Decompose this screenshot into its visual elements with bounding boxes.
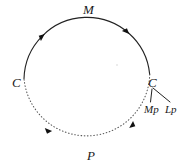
branch-line-lp: [153, 88, 170, 102]
arrowhead-group: [37, 27, 136, 135]
label-c-right: C: [148, 76, 157, 89]
branch-connectors: [151, 88, 171, 102]
label-mp: Mp: [144, 104, 159, 115]
label-p: P: [87, 149, 95, 162]
branch-line-mp: [151, 89, 153, 102]
label-c-left: C: [12, 76, 21, 89]
figure-canvas: M P C C Mp Lp: [0, 0, 190, 166]
solid-arc-M: [24, 17, 150, 78]
cycle-diagram-svg: [0, 0, 190, 166]
label-lp: Lp: [165, 104, 177, 115]
scan-speck: [116, 64, 117, 65]
label-m: M: [83, 3, 94, 16]
arrow-bottom-right-icon: [127, 121, 136, 130]
arrow-bottom-left-icon: [43, 126, 52, 135]
